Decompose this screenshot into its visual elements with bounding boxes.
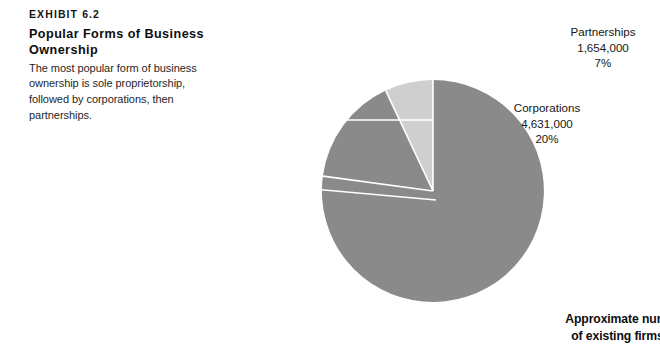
pie-label-corporations-name: Corporations	[487, 100, 607, 116]
chart-footnote: Approximate number and percentages of ex…	[510, 311, 660, 344]
pie-label-partnerships: Partnerships 1,654,000 7%	[543, 24, 660, 71]
chart-footnote-line1: Approximate number and percentages	[510, 311, 660, 328]
pie-label-partnerships-name: Partnerships	[543, 24, 660, 40]
pie-label-partnerships-value: 1,654,000	[543, 40, 660, 56]
exhibit-number: EXHIBIT 6.2	[29, 9, 219, 21]
pie-chart-area: Partnerships 1,654,000 7% Corporations 4…	[240, 0, 660, 348]
chart-footnote-line2: of existing firms in the United States	[510, 328, 660, 345]
pie-label-partnerships-percent: 7%	[543, 55, 660, 71]
pie-label-corporations-percent: 20%	[487, 131, 607, 147]
exhibit-title: Popular Forms of Business Ownership	[29, 26, 204, 58]
exhibit-description: The most popular form of business owners…	[29, 61, 201, 123]
pie-label-corporations-value: 4,631,000	[487, 116, 607, 132]
exhibit-caption-block: EXHIBIT 6.2 Popular Forms of Business Ow…	[29, 9, 219, 123]
pie-label-corporations: Corporations 4,631,000 20%	[487, 100, 607, 147]
